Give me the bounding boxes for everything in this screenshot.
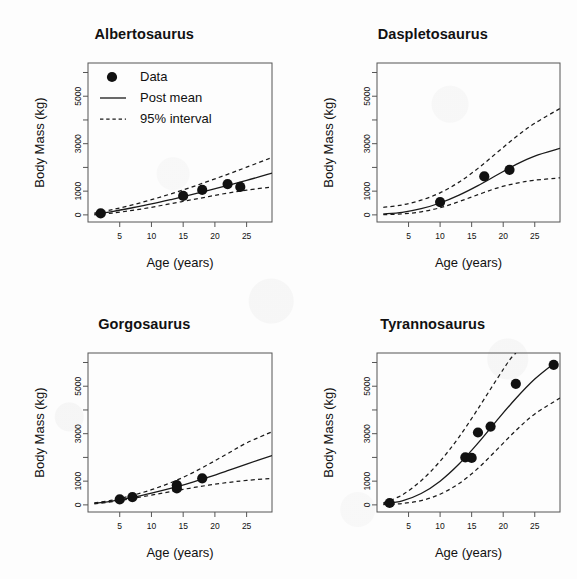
panel-daspletosaurus: Daspletosaurus 0100030005000510152025Age… (289, 0, 577, 290)
panel-albertosaurus: Albertosaurus 0100030005000510152025Age … (0, 0, 289, 290)
y-axis-tick-label: 5000 (362, 376, 372, 395)
data-point (548, 359, 558, 369)
y-axis-tick-label: 1000 (362, 471, 372, 490)
x-axis-title: Age (years) (146, 255, 213, 270)
legend-label-post-mean: Post mean (140, 90, 202, 105)
x-axis-tick-label: 25 (530, 521, 540, 531)
y-axis-tick-label: 1000 (73, 471, 83, 490)
credible-interval-curve (94, 431, 272, 502)
y-axis-title: Body Mass (kg) (321, 387, 336, 477)
credible-interval-curve (383, 178, 560, 215)
plot-content (383, 109, 560, 215)
credible-interval-curve (383, 353, 516, 503)
data-point (172, 480, 182, 490)
y-axis-title: Body Mass (kg) (32, 97, 47, 187)
y-axis-tick-label: 3000 (73, 134, 83, 153)
x-axis-tick-label: 15 (178, 231, 188, 241)
x-axis-tick-label: 25 (242, 231, 252, 241)
data-point (222, 179, 232, 189)
x-axis-tick-label: 20 (498, 231, 508, 241)
x-axis-tick-label: 15 (466, 231, 476, 241)
plot-gorgosaurus: 0100030005000510152025Age (years)Body Ma… (0, 290, 289, 579)
data-point (115, 494, 125, 504)
credible-interval-curve (383, 109, 560, 208)
data-point (197, 185, 207, 195)
y-axis-tick-label: 3000 (362, 423, 372, 442)
y-axis-title: Body Mass (kg) (32, 387, 47, 477)
data-point (479, 171, 489, 181)
legend-label-interval: 95% interval (140, 111, 212, 126)
data-point (485, 421, 495, 431)
y-axis-tick-label: 3000 (73, 423, 83, 442)
data-point (178, 191, 188, 201)
x-axis-tick-label: 10 (147, 231, 157, 241)
x-axis-title: Age (years) (434, 545, 501, 560)
panel-gorgosaurus: Gorgosaurus 0100030005000510152025Age (y… (0, 290, 289, 579)
data-point (504, 165, 514, 175)
x-axis-tick-label: 20 (210, 521, 220, 531)
x-axis-tick-label: 25 (530, 231, 540, 241)
data-point (510, 378, 520, 388)
x-axis-tick-label: 5 (117, 521, 122, 531)
data-point (197, 473, 207, 483)
x-axis-tick-label: 20 (210, 231, 220, 241)
data-point (466, 452, 476, 462)
y-axis-tick-label: 1000 (362, 181, 372, 200)
y-axis-tick-label: 0 (362, 212, 372, 217)
x-axis-tick-label: 25 (242, 521, 252, 531)
x-axis-tick-label: 20 (498, 521, 508, 531)
y-axis-tick-label: 5000 (73, 376, 83, 395)
plot-albertosaurus: 0100030005000510152025Age (years)Body Ma… (0, 0, 289, 290)
y-axis-tick-label: 1000 (73, 181, 83, 200)
y-axis-title: Body Mass (kg) (321, 97, 336, 187)
x-axis-tick-label: 15 (178, 521, 188, 531)
data-point (472, 427, 482, 437)
credible-interval-curve (94, 157, 272, 213)
data-point (127, 491, 137, 501)
legend-data-marker (107, 72, 117, 82)
y-axis-tick-label: 0 (73, 212, 83, 217)
plot-content (383, 353, 560, 508)
x-axis-title: Age (years) (434, 255, 501, 270)
posterior-mean-curve (383, 363, 553, 503)
y-axis-tick-label: 3000 (362, 134, 372, 153)
plot-content (94, 157, 272, 218)
x-axis-tick-label: 5 (117, 231, 122, 241)
posterior-mean-curve (383, 148, 560, 214)
plot-frame (377, 353, 560, 512)
x-axis-tick-label: 15 (466, 521, 476, 531)
x-axis-tick-label: 5 (406, 521, 411, 531)
legend-label-data: Data (140, 69, 168, 84)
plot-content (94, 431, 272, 504)
plot-tyrannosaurus: 0100030005000510152025Age (years)Body Ma… (289, 290, 577, 579)
y-axis-tick-label: 0 (73, 502, 83, 507)
data-point (435, 197, 445, 207)
x-axis-tick-label: 10 (435, 231, 445, 241)
data-point (235, 182, 245, 192)
figure-panel-grid: Albertosaurus 0100030005000510152025Age … (0, 0, 577, 579)
data-point (96, 208, 106, 218)
y-axis-tick-label: 0 (362, 502, 372, 507)
y-axis-tick-label: 5000 (362, 87, 372, 106)
x-axis-tick-label: 10 (147, 521, 157, 531)
y-axis-tick-label: 5000 (73, 87, 83, 106)
plot-daspletosaurus: 0100030005000510152025Age (years)Body Ma… (289, 0, 577, 290)
x-axis-tick-label: 10 (435, 521, 445, 531)
x-axis-tick-label: 5 (406, 231, 411, 241)
x-axis-title: Age (years) (146, 545, 213, 560)
panel-tyrannosaurus: Tyrannosaurus 0100030005000510152025Age … (289, 290, 577, 579)
data-point (384, 497, 394, 507)
